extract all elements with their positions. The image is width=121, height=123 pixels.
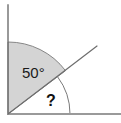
known-angle-label: 50° [22,64,45,81]
geometry-canvas: 50° ? [0,0,121,123]
unknown-angle-label: ? [46,92,56,109]
angle-diagram-figure: 50° ? [0,0,121,123]
